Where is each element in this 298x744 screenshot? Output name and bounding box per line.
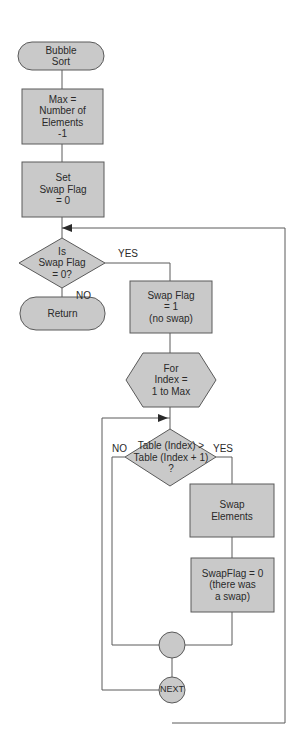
no-edge-label: NO bbox=[76, 290, 91, 301]
arrow-icon bbox=[158, 414, 168, 422]
no-edge-label: NO bbox=[112, 443, 127, 454]
compare-label: Table (Index) > Table (Index + 1) ? bbox=[118, 429, 224, 486]
set-flag-label: Set Swap Flag = 0 bbox=[22, 162, 104, 217]
flag-one-label: Swap Flag = 1 (no swap) bbox=[130, 281, 212, 333]
yes-edge-label: YES bbox=[213, 443, 233, 454]
yes-line bbox=[105, 263, 170, 281]
is-flag-label: Is Swap Flag = 0? bbox=[19, 238, 105, 288]
max-label: Max = Number of Elements -1 bbox=[22, 89, 103, 144]
for-loop-label: For Index = 1 to Max bbox=[126, 353, 216, 407]
flag-zero-label: SwapFlag = 0 (there was a swap) bbox=[191, 558, 274, 612]
arrow-icon bbox=[62, 224, 72, 232]
return-label: Return bbox=[20, 297, 105, 330]
swap-label: Swap Elements bbox=[190, 484, 274, 537]
start-label: Bubble Sort bbox=[18, 42, 104, 70]
yes-edge-label: YES bbox=[118, 248, 138, 259]
connector-circle bbox=[159, 632, 185, 658]
next-label: NEXT bbox=[157, 680, 187, 700]
connector-line bbox=[185, 612, 232, 645]
